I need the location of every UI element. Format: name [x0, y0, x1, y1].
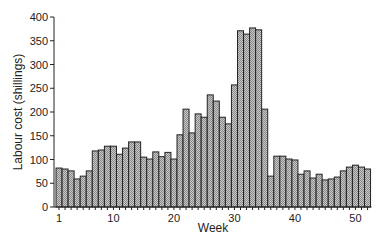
bar-week-43 — [310, 178, 316, 207]
bar-week-13 — [129, 142, 135, 207]
y-axis: 050100150200250300350400 — [30, 11, 54, 213]
bar-week-52 — [365, 169, 371, 207]
bar-week-14 — [135, 142, 141, 207]
bar-week-46 — [328, 179, 334, 207]
bar-week-6 — [86, 171, 92, 207]
bar-week-36 — [268, 176, 274, 207]
y-axis-title: Labour cost (shillings) — [11, 54, 25, 171]
bar-week-11 — [117, 154, 123, 207]
bar-week-18 — [159, 157, 165, 207]
bar-week-4 — [74, 179, 80, 207]
bar-week-3 — [68, 171, 74, 207]
x-tick-label: 1 — [56, 212, 62, 224]
x-tick-label: 40 — [289, 212, 301, 224]
bar-week-51 — [359, 167, 365, 207]
bar-week-23 — [189, 133, 195, 207]
y-tick-label: 200 — [30, 106, 48, 118]
bar-week-50 — [352, 165, 358, 207]
bar-week-29 — [225, 124, 231, 207]
x-tick-label: 20 — [168, 212, 180, 224]
bar-week-47 — [334, 177, 340, 207]
bar-week-9 — [104, 146, 110, 207]
bar-chart: 050100150200250300350400 11020304050 Wee… — [0, 0, 383, 243]
y-tick-label: 350 — [30, 35, 48, 47]
bar-week-40 — [292, 160, 298, 207]
bar-week-7 — [92, 151, 98, 207]
bar-week-33 — [250, 28, 256, 207]
bar-week-15 — [141, 157, 147, 207]
y-tick-label: 400 — [30, 11, 48, 23]
bar-week-38 — [280, 156, 286, 207]
bar-week-49 — [346, 167, 352, 207]
bar-week-44 — [316, 174, 322, 207]
x-tick-label: 30 — [228, 212, 240, 224]
y-tick-label: 150 — [30, 130, 48, 142]
bar-week-30 — [231, 85, 237, 207]
bar-week-19 — [165, 152, 171, 207]
bar-week-27 — [213, 101, 219, 207]
y-tick-label: 100 — [30, 154, 48, 166]
bar-week-39 — [286, 159, 292, 207]
bar-week-2 — [62, 169, 68, 207]
bar-week-21 — [177, 135, 183, 207]
x-tick-label: 50 — [349, 212, 361, 224]
bar-week-12 — [123, 148, 129, 207]
bar-week-35 — [262, 109, 268, 207]
bar-week-37 — [274, 156, 280, 207]
x-tick-label: 10 — [107, 212, 119, 224]
bar-week-48 — [340, 171, 346, 207]
bar-week-41 — [298, 174, 304, 207]
bar-week-16 — [147, 159, 153, 207]
bar-week-28 — [219, 117, 225, 207]
y-tick-label: 50 — [36, 177, 48, 189]
bar-week-8 — [98, 150, 104, 207]
x-axis-title: Week — [198, 221, 229, 235]
y-tick-label: 0 — [42, 201, 48, 213]
bar-week-5 — [80, 176, 86, 207]
y-tick-label: 300 — [30, 59, 48, 71]
bar-week-45 — [322, 180, 328, 207]
bar-week-42 — [304, 171, 310, 207]
bar-week-34 — [256, 30, 262, 207]
bars-group — [56, 28, 371, 207]
bar-week-25 — [201, 117, 207, 207]
bar-week-26 — [207, 95, 213, 207]
bar-week-20 — [171, 159, 177, 207]
y-tick-label: 250 — [30, 82, 48, 94]
bar-week-31 — [238, 31, 244, 207]
bar-week-1 — [56, 168, 62, 207]
bar-week-17 — [153, 152, 159, 207]
bar-week-10 — [110, 146, 116, 207]
bar-week-22 — [183, 109, 189, 207]
bar-week-32 — [244, 34, 250, 207]
bar-week-24 — [195, 114, 201, 207]
